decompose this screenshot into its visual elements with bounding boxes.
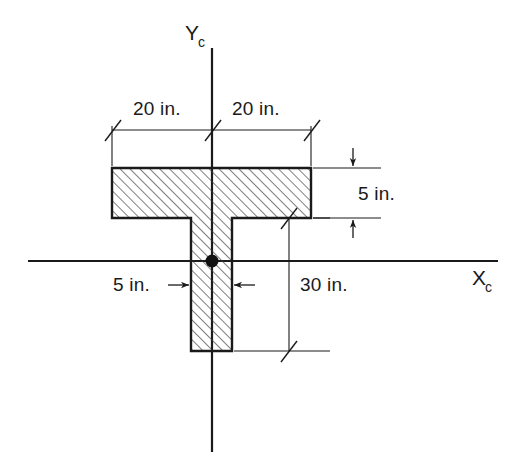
x-axis-label-text: X bbox=[472, 266, 486, 289]
dimension-label-web-thickness: 5 in. bbox=[113, 274, 150, 296]
tee-section-diagram bbox=[0, 0, 518, 466]
x-axis-label-subscript: c bbox=[485, 279, 492, 295]
dimension-label-flange-thickness: 5 in. bbox=[358, 183, 395, 205]
y-axis-label: Yc bbox=[185, 21, 206, 48]
x-axis-label: Xc bbox=[472, 266, 493, 293]
y-axis-label-text: Y bbox=[185, 21, 199, 44]
centroid-marker bbox=[206, 255, 219, 268]
dimension-label-flange-left-half: 20 in. bbox=[133, 98, 181, 120]
dimension-label-flange-right-half: 20 in. bbox=[232, 98, 280, 120]
dimension-label-web-depth: 30 in. bbox=[300, 274, 348, 296]
y-axis-label-subscript: c bbox=[198, 34, 205, 50]
figure-canvas: 20 in. 20 in. 5 in. 5 in. 30 in. Yc Xc bbox=[0, 0, 518, 466]
